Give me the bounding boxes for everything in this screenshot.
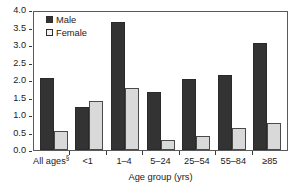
y-tick-label: 0.5: [0, 129, 26, 138]
y-tick-label: 2.5: [0, 59, 26, 68]
bar-male-1: [75, 107, 89, 150]
x-tick-mark: [252, 151, 253, 155]
bar-female-0: [54, 131, 68, 150]
bar-female-6: [267, 123, 281, 150]
x-tick-label: 25–54: [179, 156, 215, 170]
bar-female-5: [232, 128, 246, 150]
bar-female-2: [125, 88, 139, 150]
x-tick-mark: [179, 151, 180, 155]
y-tick-label: 3.5: [0, 24, 26, 33]
bar-group: [214, 12, 250, 150]
y-tick-mark: [29, 11, 32, 12]
x-axis-tick-marks: [33, 151, 288, 155]
x-axis-tick-labels: All ages§<11–45–2425–5455–84≥85: [33, 156, 288, 170]
y-tick-label: 2.0: [0, 76, 26, 85]
bar-group: [143, 12, 179, 150]
bar-group: [178, 12, 214, 150]
bar-group: [249, 12, 285, 150]
legend-label-female: Female: [56, 28, 87, 38]
y-tick-mark: [29, 151, 32, 152]
x-tick-label: 1–4: [106, 156, 142, 170]
x-tick-label: ≥85: [252, 156, 288, 170]
y-tick-mark: [29, 99, 32, 100]
y-tick-mark: [29, 64, 32, 65]
y-axis-tick-labels: 0.00.51.01.52.02.53.03.54.0: [0, 0, 29, 189]
legend-swatch-male-icon: [46, 16, 53, 23]
y-tick-mark: [29, 116, 32, 117]
bar-female-1: [89, 101, 103, 150]
y-tick-label: 1.5: [0, 94, 26, 103]
y-tick-label: 3.0: [0, 41, 26, 50]
x-tick-label: All ages§: [33, 156, 69, 170]
x-tick-label: 55–84: [215, 156, 251, 170]
bar-male-2: [111, 22, 125, 150]
x-tick-mark: [142, 151, 143, 155]
y-tick-mark: [29, 134, 32, 135]
bar-female-4: [196, 136, 210, 150]
chart-legend: Male Female: [46, 14, 87, 38]
x-tick-label: 5–24: [142, 156, 178, 170]
bar-female-3: [161, 140, 175, 151]
legend-item-male: Male: [46, 14, 87, 25]
bar-male-3: [147, 92, 161, 150]
x-tick-label: <1: [69, 156, 105, 170]
bar-male-0: [40, 78, 54, 150]
bar-male-5: [218, 75, 232, 150]
y-tick-mark: [29, 29, 32, 30]
y-tick-mark: [29, 46, 32, 47]
y-tick-mark: [29, 81, 32, 82]
y-tick-label: 1.0: [0, 111, 26, 120]
x-tick-mark: [106, 151, 107, 155]
bar-male-4: [182, 79, 196, 150]
bar-chart-figure: Deaths per 100,000 population 0.00.51.01…: [0, 0, 296, 189]
x-axis-title: Age group (yrs): [33, 172, 288, 182]
y-tick-label: 0.0: [0, 146, 26, 155]
bar-male-6: [253, 43, 267, 150]
legend-label-male: Male: [56, 15, 76, 25]
x-tick-mark: [215, 151, 216, 155]
y-tick-label: 4.0: [0, 6, 26, 15]
legend-swatch-female-icon: [46, 29, 53, 36]
bar-group: [107, 12, 143, 150]
legend-item-female: Female: [46, 27, 87, 38]
